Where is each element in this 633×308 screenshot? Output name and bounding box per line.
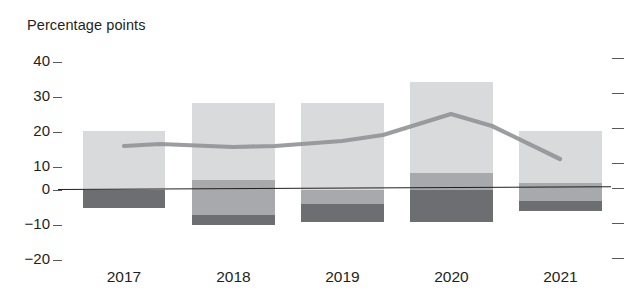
x-tick-2021: 2021 (519, 268, 602, 286)
bar-segment-2018-dark (192, 215, 275, 226)
bar-group-2018 (192, 103, 275, 226)
plot-area (0, 0, 633, 308)
bar-group-2021 (519, 131, 602, 212)
bar-segment-2017-light (83, 131, 165, 191)
x-tick-2017: 2017 (83, 268, 165, 286)
bar-segment-2020-light (410, 82, 493, 173)
x-tick-2019: 2019 (301, 268, 384, 286)
bar-segment-2021-dark (519, 201, 602, 212)
bar-group-2019 (301, 103, 384, 222)
x-tick-2020: 2020 (410, 268, 493, 286)
chart-container: Percentage points 40 30 20 10 0 −10 −20 (0, 0, 633, 308)
bar-group-2017 (83, 131, 165, 208)
bar-segment-2019-light (301, 103, 384, 191)
x-tick-2018: 2018 (192, 268, 275, 286)
bar-segment-2021-light (519, 131, 602, 184)
bar-segment-2019-dark (301, 204, 384, 222)
bar-segment-2019-medium (301, 190, 384, 204)
x-axis-tick-labels: 2017 2018 2019 2020 2021 (0, 268, 633, 298)
bar-segment-2020-dark (410, 190, 493, 222)
bar-segment-2018-light (192, 103, 275, 180)
bar-segment-2017-dark (83, 190, 165, 208)
bar-group-2020 (410, 82, 493, 222)
